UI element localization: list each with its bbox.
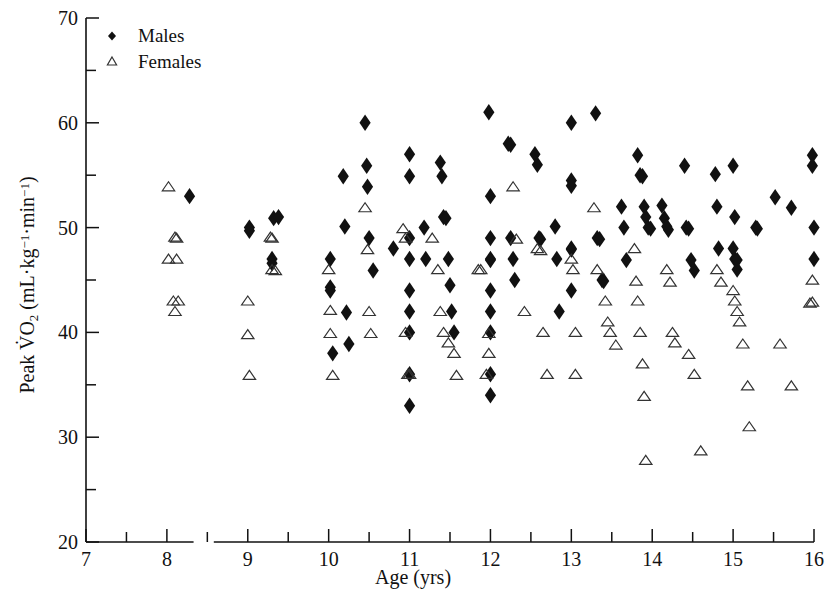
data-point-female [785,381,797,390]
data-point-male [505,230,516,246]
data-point-female [695,446,707,455]
data-point-male [404,282,415,298]
data-point-male [618,219,629,235]
data-point-male [679,158,690,174]
data-point-female [327,370,339,379]
x-tick-label: 14 [642,548,662,570]
y-title-o: O [16,321,38,335]
data-point-female [731,306,743,315]
data-point-male [485,252,496,268]
data-point-male [483,104,494,120]
data-point-male [404,398,415,414]
data-point-male [443,251,454,267]
data-point-male [419,219,430,235]
data-point-male [566,115,577,131]
data-point-female [610,340,622,349]
data-point-female [507,182,519,191]
data-point-female [640,455,652,464]
x-tick-label: 13 [561,548,581,570]
data-point-male [551,251,562,267]
data-point-male [485,188,496,204]
y-title-v-dot: V̇ [15,335,38,350]
data-point-female [688,369,700,378]
data-point-female [729,296,741,305]
legend-label-females: Females [138,51,201,72]
scatter-plot-figure: 78910111213141516 203040506070 MalesFema… [0,0,827,599]
data-point-male [368,262,379,278]
data-point-female [537,327,549,336]
chart-legend: MalesFemales [107,25,201,72]
data-point-female [569,327,581,336]
data-point-male [507,251,518,267]
data-point-female [711,265,723,274]
data-point-male [509,272,520,288]
y-axis-title: Peak V̇O2 (mL·kg−1·min−1) [15,176,41,393]
axis-titles-group: Age (yrs) Peak V̇O2 (mL·kg−1·min−1) [15,176,451,589]
x-axis-tick-labels: 78910111213141516 [81,548,824,570]
data-point-male [713,240,724,256]
data-point-female [242,330,254,339]
data-point-female [432,265,444,274]
data-point-male [359,115,370,131]
y-tick-label: 50 [58,217,78,239]
data-point-female [664,277,676,286]
series-males-points [184,104,820,414]
data-point-male [327,345,338,361]
data-point-male [436,168,447,184]
data-point-male [388,240,399,256]
data-point-female [426,233,438,242]
data-point-female [569,369,581,378]
data-point-female [630,276,642,285]
peak-vo2-vs-age-scatter-chart: 78910111213141516 203040506070 MalesFema… [0,0,827,599]
data-point-male [729,209,740,225]
data-point-male [770,189,781,205]
data-point-female [733,317,745,326]
data-point-female [450,370,462,379]
data-point-male [485,303,496,319]
data-point-male [808,251,819,267]
y-title-unit-close: ) [16,176,39,183]
data-point-female [437,327,449,336]
x-tick-label: 16 [804,548,824,570]
data-point-female [715,277,727,286]
y-tick-label: 30 [58,426,78,448]
data-point-male [808,219,819,235]
data-point-female [483,348,495,357]
data-point-male [590,105,601,121]
y-tick-label: 70 [58,7,78,29]
y-title-sup-one: −1 [17,235,32,249]
data-point-male [341,304,352,320]
data-point-female [638,391,650,400]
data-point-male [404,251,415,267]
data-point-female [448,348,460,357]
data-point-female [602,317,614,326]
data-point-male [566,241,577,257]
legend-marker-females [107,57,116,65]
data-point-male [656,197,667,213]
data-point-female [588,203,600,212]
data-point-female [599,296,611,305]
data-point-male [364,230,375,246]
legend-marker-males [108,32,116,41]
x-axis-title: Age (yrs) [375,566,451,589]
data-point-female [169,306,181,315]
data-point-male [485,387,496,403]
y-tick-label: 20 [58,531,78,553]
data-point-male [404,303,415,319]
svg-text:Peak V̇O2 (mL·kg−1·min−1): Peak V̇O2 (mL·kg−1·min−1) [15,176,41,393]
data-point-female [322,265,334,274]
data-point-male [446,303,457,319]
x-tick-label: 9 [243,548,253,570]
data-point-female [359,203,371,212]
data-point-male [184,188,195,204]
data-point-female [631,296,643,305]
data-point-male [435,154,446,170]
data-point-male [448,324,459,340]
data-point-female [243,370,255,379]
data-point-female [628,244,640,253]
y-title-lead: Peak [16,350,38,394]
data-point-male [404,146,415,162]
data-point-female [567,265,579,274]
data-point-male [710,166,721,182]
data-point-female [162,182,174,191]
